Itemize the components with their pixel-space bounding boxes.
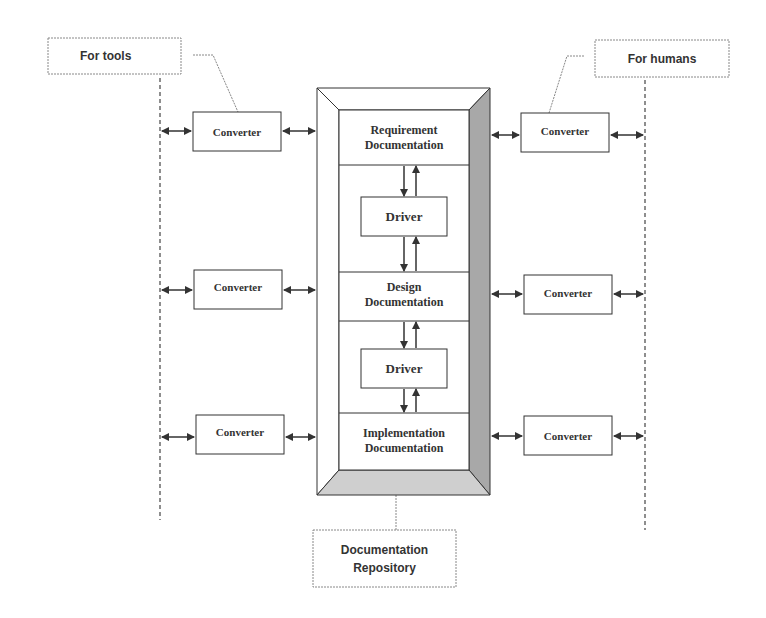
- design-documentation-label: Design Documentation: [339, 270, 469, 320]
- for-tools-leader: [193, 55, 238, 112]
- doc-line1: Requirement: [370, 123, 437, 138]
- doc-line2: Documentation: [365, 138, 444, 153]
- for-tools-label: For tools: [48, 38, 181, 74]
- for-humans-leader: [549, 56, 584, 113]
- right-converter-label-3: Converter: [524, 416, 612, 455]
- repository-line1: Documentation: [341, 541, 428, 559]
- doc-line1: Design: [387, 280, 422, 295]
- driver-label-1: Driver: [361, 197, 447, 236]
- right-converter-label-1: Converter: [521, 111, 609, 150]
- left-converter-label-3: Converter: [196, 412, 284, 451]
- left-converter-label-2: Converter: [194, 267, 282, 306]
- driver-label-2: Driver: [361, 349, 447, 388]
- requirement-documentation-label: Requirement Documentation: [339, 112, 469, 164]
- doc-line1: Implementation: [363, 426, 445, 441]
- for-humans-label: For humans: [595, 40, 729, 77]
- implementation-documentation-label: Implementation Documentation: [339, 414, 469, 468]
- left-converter-label-1: Converter: [193, 112, 281, 151]
- doc-line2: Documentation: [365, 441, 444, 456]
- repository-line2: Repository: [353, 559, 416, 577]
- right-converter-label-2: Converter: [524, 273, 612, 312]
- repository-label: Documentation Repository: [313, 530, 456, 587]
- doc-line2: Documentation: [365, 295, 444, 310]
